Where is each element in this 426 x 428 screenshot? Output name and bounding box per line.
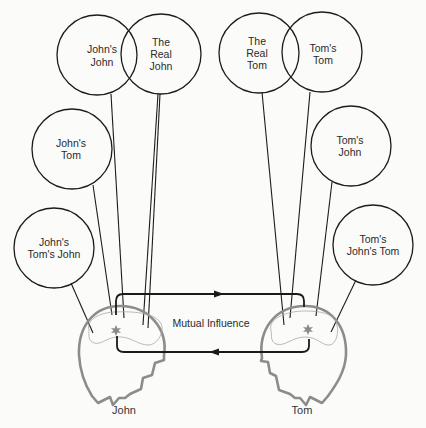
circle-toms-johns-tom: Tom's John's Tom	[333, 205, 413, 285]
label-line: John	[150, 60, 173, 72]
label-line: Tom's	[309, 42, 336, 54]
label-line: Tom's	[359, 233, 386, 245]
diagram-canvas: John's John The Real John John's Tom Joh…	[0, 0, 426, 428]
label-line: John	[91, 56, 114, 68]
circle-johns-toms-john: John's Tom's John	[14, 208, 94, 288]
stem-the-real-john-2	[148, 94, 160, 328]
label-line: Real	[246, 47, 268, 59]
star-icon	[303, 324, 313, 335]
label-line: Tom	[61, 149, 81, 161]
star-icon	[111, 325, 121, 336]
arrow-tom-to-john	[117, 336, 309, 356]
stem-the-real-tom	[262, 92, 284, 325]
arrowhead-left-icon	[209, 349, 219, 356]
label-line: Tom	[313, 54, 333, 66]
circle-johns-tom: John's Tom	[32, 109, 112, 189]
mutual-influence-label: Mutual Influence	[172, 317, 249, 329]
label-line: John's	[39, 236, 69, 248]
label-line: John's Tom	[347, 245, 400, 257]
label-line: The	[152, 36, 170, 48]
label-line: Tom's	[336, 134, 363, 146]
label-line: The	[248, 35, 266, 47]
label-line: Real	[150, 48, 172, 60]
circle-johns-john: John's John	[57, 15, 137, 95]
person-name-tom: Tom	[292, 404, 313, 416]
stem-toms-johns-tom	[331, 280, 356, 332]
stem-johns-john	[111, 94, 124, 318]
arrowhead-right-icon	[214, 291, 224, 298]
stem-toms-tom	[290, 92, 310, 318]
stem-johns-toms-john	[71, 283, 93, 333]
label-line: Tom's John	[28, 248, 81, 260]
label-line: Tom	[247, 59, 267, 71]
circle-the-real-tom: The Real Tom	[219, 13, 299, 93]
person-name-john: John	[112, 404, 136, 416]
head-tom	[261, 306, 346, 405]
circle-the-real-john: The Real John	[121, 14, 201, 94]
circle-toms-john: Tom's John	[311, 106, 391, 186]
stem-the-real-john	[143, 94, 158, 325]
label-line: John	[339, 146, 362, 158]
head-john	[79, 306, 165, 405]
stem-toms-john	[316, 182, 332, 316]
label-line: John's	[87, 43, 117, 55]
label-line: John's	[56, 137, 86, 149]
stem-johns-tom	[93, 185, 112, 315]
circle-toms-tom: Tom's Tom	[282, 12, 362, 92]
